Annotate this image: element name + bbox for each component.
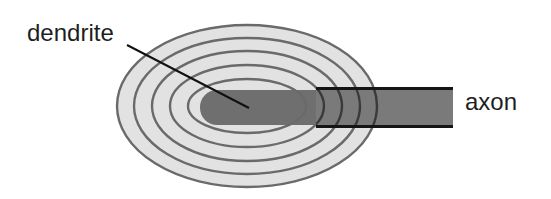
axon-label: axon (465, 90, 517, 114)
dendrite-label: dendrite (27, 21, 114, 45)
axon-body (316, 88, 453, 127)
